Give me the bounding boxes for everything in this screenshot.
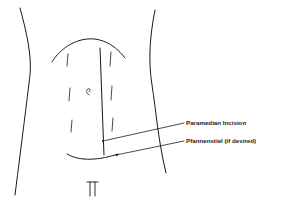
pfannenstiel-label: Pfannenstiel (if desired) (186, 138, 256, 144)
right-torso-outline (150, 10, 166, 173)
paramedian-incision-label: Paramedian Incision (186, 120, 246, 126)
paramedian-leader-line (103, 123, 184, 141)
left-rectus-mark-3 (71, 120, 72, 132)
pfannenstiel-incision-curve (67, 154, 118, 159)
pfannenstiel-leader-dot (116, 154, 118, 156)
left-rectus-mark-2 (69, 88, 70, 101)
paramedian-incision-line (100, 48, 104, 155)
right-rectus-mark-3 (112, 118, 113, 131)
left-torso-outline (15, 8, 30, 195)
right-rectus-mark-1 (110, 52, 111, 66)
abdomen-diagram (0, 0, 283, 202)
pfannenstiel-leader-line (116, 141, 184, 155)
pubic-symbol-icon (87, 182, 98, 196)
left-rectus-mark-1 (67, 54, 68, 66)
right-rectus-mark-2 (111, 86, 112, 100)
paramedian-leader-dot (102, 140, 104, 142)
navel-icon (87, 89, 90, 95)
rib-cage-arch (52, 39, 125, 62)
